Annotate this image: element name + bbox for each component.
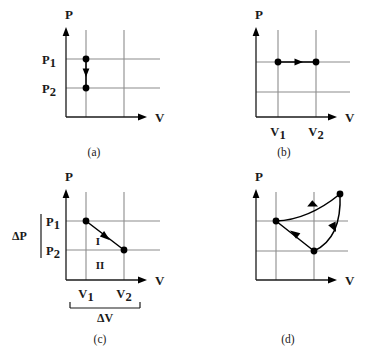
panel-b-x-tick-label-v2: V2 bbox=[308, 125, 323, 142]
panel-c-x-tick-sub-v1: 1 bbox=[87, 290, 93, 304]
panel-d-state-point-bottom-middle bbox=[311, 248, 318, 255]
panel-d-cycle-leg-2-arrowhead bbox=[328, 222, 336, 232]
panel-a-y-tick-label-p2: P2 bbox=[42, 82, 56, 99]
panel-c-delta-p-label: ΔP bbox=[12, 229, 27, 243]
panel-c-x-tick-label-v2: V2 bbox=[116, 287, 131, 304]
panel-c-x-axis-label: V bbox=[155, 273, 165, 288]
panel-b-x-tick-sub-v2: 2 bbox=[317, 128, 323, 142]
panel-b-y-axis-label: P bbox=[255, 7, 263, 22]
panel-b-x-tick-base-v2: V bbox=[308, 125, 317, 139]
panel-c-y-tick-sub-p2: 2 bbox=[54, 247, 60, 261]
panel-c-y-axis-label: P bbox=[65, 170, 73, 184]
panel-c-delta-v-label: ΔV bbox=[97, 311, 114, 325]
panel-c-region-label-i: I bbox=[96, 235, 100, 247]
panel-d-state-point-top-right bbox=[337, 191, 344, 198]
panel-c: P V P1 P2 ΔP V1 V2 ΔV I II (c) bbox=[0, 170, 188, 359]
panel-b-x-tick-sub-v1: 1 bbox=[279, 128, 285, 142]
panel-d-state-point-left bbox=[273, 218, 280, 225]
panel-b-x-tick-base-v1: V bbox=[270, 125, 279, 139]
panel-c-caption: (c) bbox=[94, 333, 107, 346]
panel-c-x-axis-arrowhead bbox=[138, 277, 147, 284]
panel-c-x-tick-sub-v2: 2 bbox=[125, 290, 131, 304]
panel-b-process-arrowhead bbox=[295, 59, 304, 66]
panel-a-y-axis-arrowhead bbox=[63, 27, 70, 36]
panel-a-process-arrowhead bbox=[83, 69, 90, 78]
panel-d-x-axis-arrowhead bbox=[328, 277, 337, 284]
panel-b-state-point-2 bbox=[313, 59, 320, 66]
panel-b-caption: (b) bbox=[277, 146, 291, 159]
panel-a-x-axis-arrowhead bbox=[138, 114, 147, 121]
panel-c-x-tick-base-v2: V bbox=[116, 287, 125, 301]
panel-c-region-label-ii: II bbox=[96, 259, 105, 271]
panel-c-y-axis-arrowhead bbox=[63, 189, 70, 198]
panel-c-y-tick-label-p2: P2 bbox=[46, 244, 60, 261]
panel-b-y-axis-arrowhead bbox=[253, 27, 260, 36]
panel-a-y-tick-sub-p1: 1 bbox=[50, 56, 56, 70]
panel-d-caption: (d) bbox=[281, 333, 295, 346]
panel-d: P V (d) bbox=[188, 170, 376, 359]
panel-c-state-point-1 bbox=[83, 218, 90, 225]
panel-b-x-axis-arrowhead bbox=[328, 114, 337, 121]
panel-d-cycle-leg-3-arrowhead bbox=[290, 231, 300, 239]
panel-c-y-tick-sub-p1: 1 bbox=[54, 218, 60, 232]
panel-a-y-tick-label-p1: P1 bbox=[42, 53, 56, 70]
panel-a: P V P1 P2 (a) bbox=[0, 0, 188, 180]
panel-d-cycle-leg-1-arrowhead bbox=[307, 200, 318, 206]
panel-a-state-point-1 bbox=[83, 56, 90, 63]
physics-pv-diagram-figure: P V P1 P2 (a) P V V1 V2 (b) bbox=[0, 0, 376, 359]
panel-c-x-tick-label-v1: V1 bbox=[78, 287, 93, 304]
panel-a-x-axis-label: V bbox=[155, 110, 165, 125]
panel-d-cycle-leg-2-path bbox=[314, 194, 340, 251]
panel-b-x-tick-label-v1: V1 bbox=[270, 125, 285, 142]
panel-d-x-axis-label: V bbox=[345, 273, 355, 288]
panel-a-state-point-2 bbox=[83, 85, 90, 92]
panel-c-state-point-2 bbox=[121, 247, 128, 254]
panel-d-y-axis-label: P bbox=[255, 170, 263, 184]
panel-b-x-axis-label: V bbox=[345, 110, 355, 125]
panel-d-y-axis-arrowhead bbox=[253, 189, 260, 198]
panel-a-y-axis-label: P bbox=[65, 7, 73, 22]
panel-b-state-point-1 bbox=[275, 59, 282, 66]
panel-a-caption: (a) bbox=[88, 146, 101, 159]
panel-c-x-tick-base-v1: V bbox=[78, 287, 87, 301]
panel-b: P V V1 V2 (b) bbox=[188, 0, 376, 180]
panel-a-y-tick-sub-p2: 2 bbox=[50, 85, 56, 99]
panel-c-y-tick-label-p1: P1 bbox=[46, 215, 60, 232]
panel-d-cycle-leg-1-path bbox=[276, 194, 340, 221]
